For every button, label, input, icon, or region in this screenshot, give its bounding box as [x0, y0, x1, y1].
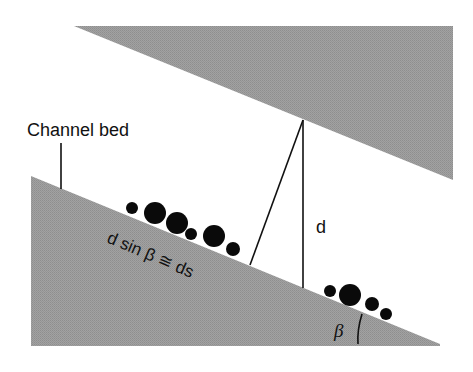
channel-bed-label: Channel bed: [27, 120, 129, 140]
channel-bed-slope: [31, 176, 440, 346]
angle-label: β: [333, 320, 344, 341]
sediment-particle: [365, 297, 379, 311]
sediment-particle: [380, 308, 392, 320]
diagram-stage: Channel bed d d sin β ≅ ds β: [0, 0, 473, 372]
sediment-particle: [203, 225, 225, 247]
sediment-particle: [226, 242, 240, 256]
sediment-particle: [144, 202, 166, 224]
sediment-particle: [166, 212, 188, 234]
upper-surface-wedge: [74, 26, 453, 180]
channel-flow-diagram: Channel bed d d sin β ≅ ds β: [0, 0, 473, 372]
sediment-particle: [324, 285, 336, 297]
perpendicular-depth-line: [250, 120, 303, 265]
sediment-particle: [185, 228, 197, 240]
sediment-particle: [339, 284, 361, 306]
sediment-particle: [126, 202, 138, 214]
depth-label: d: [316, 217, 326, 237]
